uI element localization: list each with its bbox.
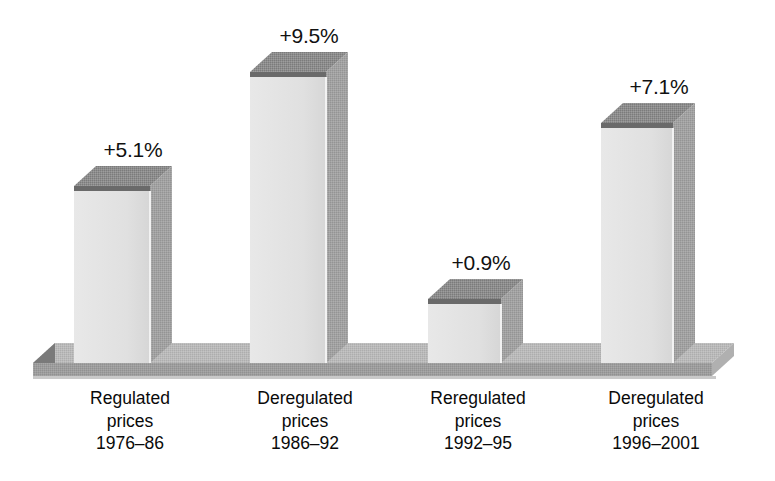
bar-3-top-lip: [428, 299, 501, 304]
bar-3-value-label: +0.9%: [451, 252, 510, 273]
bar-4-top-lip: [601, 123, 673, 128]
platform-front-face: [33, 363, 712, 376]
bar-2-top-lip: [250, 72, 326, 77]
bar-2-group: [250, 52, 348, 363]
platform-left-chamfer: [33, 343, 55, 363]
bar-1-category-line-1: Regulated: [90, 387, 170, 410]
bar-4-category-line-1: Deregulated: [608, 387, 703, 410]
bar-1-value-label: +5.1%: [103, 139, 162, 160]
bar-4-value-label: +7.1%: [629, 76, 688, 97]
bar-3-category-line-1: Reregulated: [430, 387, 525, 410]
bar-3-category-label: Reregulated prices 1992–95: [430, 387, 525, 455]
bar-1-group: [74, 166, 172, 363]
bar-1-side-face: [150, 166, 172, 363]
bar-4-side-face: [673, 103, 695, 363]
bar-4-category-label: Deregulated prices 1996–2001: [608, 387, 703, 455]
bar-3-front-face: [428, 304, 501, 363]
bar-1-category-label: Regulated prices 1976–86: [90, 387, 170, 455]
bar-2-category-line-2: prices: [257, 410, 352, 433]
bar-2-front-face: [250, 77, 326, 363]
bar-3-category-line-2: prices: [430, 410, 525, 433]
bar-2-category-line-1: Deregulated: [257, 387, 352, 410]
bar-1-top-lip: [74, 186, 150, 191]
bar-4-category-line-3: 1996–2001: [608, 432, 703, 455]
bar-3-category-line-3: 1992–95: [430, 432, 525, 455]
bar-2-category-line-3: 1986–92: [257, 432, 352, 455]
bar-1-category-line-2: prices: [90, 410, 170, 433]
bar-4-front-face: [601, 128, 673, 363]
platform-bottom-edge: [33, 376, 716, 379]
bar-2-value-label: +9.5%: [279, 25, 338, 46]
bar-2-category-label: Deregulated prices 1986–92: [257, 387, 352, 455]
bar-chart: +5.1% +9.5% +0.9% +7.1% Regulated prices…: [0, 0, 775, 481]
bar-3-group: [428, 279, 523, 363]
bar-4-group: [601, 103, 695, 363]
bar-2-side-face: [326, 52, 348, 363]
bar-1-category-line-3: 1976–86: [90, 432, 170, 455]
bar-4-category-line-2: prices: [608, 410, 703, 433]
bar-1-front-face: [74, 191, 150, 363]
